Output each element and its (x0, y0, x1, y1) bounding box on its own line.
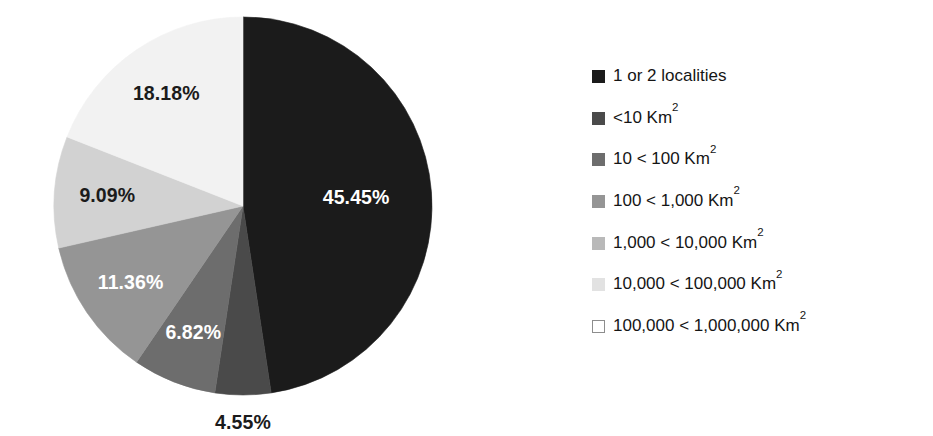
chart-canvas: 45.45%4.55%6.82%11.36%9.09%18.18% 1 or 2… (0, 0, 933, 436)
legend-item-label: <10 Km2 (613, 108, 678, 128)
legend-item[interactable]: 10,000 < 100,000 Km2 (592, 274, 922, 316)
legend-item[interactable]: 100,000 < 1,000,000 Km2 (592, 316, 922, 358)
pie-slice-value-label: 6.82% (165, 323, 221, 343)
legend: 1 or 2 localities <10 Km2 10 < 100 Km2 1… (592, 66, 922, 358)
legend-swatch-icon (592, 320, 605, 333)
legend-swatch-icon (592, 153, 605, 166)
pie-slice-value-label: 4.55% (215, 413, 271, 433)
legend-item[interactable]: 1,000 < 10,000 Km2 (592, 233, 922, 275)
legend-item[interactable]: <10 Km2 (592, 108, 922, 150)
legend-item-label: 10,000 < 100,000 Km2 (613, 274, 782, 294)
legend-swatch-icon (592, 278, 605, 291)
legend-item[interactable]: 1 or 2 localities (592, 66, 922, 108)
pie-slice-value-label: 11.36% (98, 273, 164, 293)
legend-item-label: 1,000 < 10,000 Km2 (613, 233, 764, 253)
pie-slice-value-label: 45.45% (323, 188, 390, 208)
pie-chart-svg (0, 0, 520, 436)
legend-swatch-icon (592, 112, 605, 125)
legend-item-label: 10 < 100 Km2 (613, 149, 716, 169)
pie-chart: 45.45%4.55%6.82%11.36%9.09%18.18% (0, 0, 520, 436)
pie-slice-value-label: 9.09% (79, 186, 135, 206)
legend-swatch-icon (592, 70, 605, 83)
pie-slice-value-label: 18.18% (133, 84, 200, 104)
legend-item[interactable]: 10 < 100 Km2 (592, 149, 922, 191)
legend-item-label: 1 or 2 localities (613, 66, 726, 86)
legend-swatch-icon (592, 195, 605, 208)
legend-item-label: 100 < 1,000 Km2 (613, 191, 740, 211)
legend-swatch-icon (592, 237, 605, 250)
legend-item-label: 100,000 < 1,000,000 Km2 (613, 316, 806, 336)
